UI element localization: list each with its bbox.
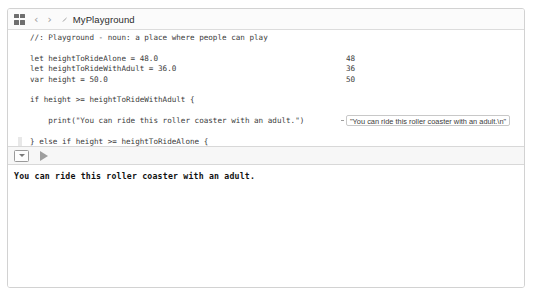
- code-line-text: let heightToRideAlone = 48.0: [30, 54, 158, 63]
- code-line-text: print("You can ride this roller coaster …: [30, 116, 304, 125]
- play-icon[interactable]: [40, 151, 48, 161]
- code-editor[interactable]: //: Playground - noun: a place where peo…: [8, 30, 524, 146]
- result-connector: [341, 120, 344, 121]
- screenshot-root: ‹ › MyPlayground //: Playground - noun: …: [0, 0, 533, 296]
- top-toolbar: ‹ › MyPlayground: [8, 9, 524, 30]
- results-sidebar: 483650"You can ride this roller coaster …: [338, 30, 524, 146]
- back-chevron-icon[interactable]: ‹: [34, 14, 38, 25]
- bottom-toolbar: [8, 146, 524, 165]
- fold-gutter-bar: [18, 137, 22, 146]
- console-output: You can ride this roller coaster with an…: [8, 165, 524, 287]
- result-value: 50: [338, 75, 524, 85]
- code-line-text: if height >= heightToRideWithAdult {: [30, 95, 195, 104]
- result-line: [338, 43, 524, 53]
- code-line-text: var height = 50.0: [30, 75, 108, 84]
- code-line-text: } else if height >= heightToRideAlone {: [30, 137, 208, 146]
- playground-window: ‹ › MyPlayground //: Playground - noun: …: [7, 8, 525, 288]
- code-line-text: //: Playground - noun: a place where peo…: [30, 33, 268, 42]
- result-bubble-row: "You can ride this roller coaster with a…: [338, 116, 524, 126]
- breadcrumb-title[interactable]: MyPlayground: [73, 14, 135, 25]
- result-line: [338, 137, 524, 146]
- result-line: [338, 33, 524, 43]
- result-value-bubble[interactable]: "You can ride this roller coaster with a…: [346, 115, 510, 126]
- result-line: [338, 127, 524, 137]
- console-toggle-icon[interactable]: [14, 150, 29, 162]
- swift-file-icon: [61, 16, 68, 23]
- panel-grid-icon[interactable]: [14, 14, 25, 25]
- result-line: [338, 95, 524, 105]
- code-line-text: let heightToRideWithAdult = 36.0: [30, 64, 176, 73]
- result-line: [338, 85, 524, 95]
- forward-chevron-icon[interactable]: ›: [47, 14, 51, 25]
- result-value: 36: [338, 64, 524, 74]
- result-value: 48: [338, 54, 524, 64]
